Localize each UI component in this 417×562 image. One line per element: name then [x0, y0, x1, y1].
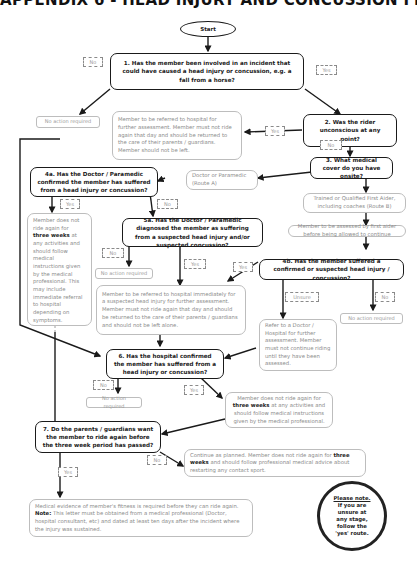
- refer-hospital-5a-box: Member to be referred to hospital immedi…: [96, 285, 246, 335]
- route-b-box: Trained or Qualified First Aider, includ…: [303, 193, 406, 213]
- refer-hospital-box: Member to be referred to hospital for fu…: [112, 111, 242, 160]
- six-yes-outcome: Member does not ride again for three wee…: [225, 392, 333, 428]
- q7-yes-label: Yes: [58, 467, 78, 477]
- question-2: 2. Was the rider unconscious at any poin…: [303, 114, 397, 147]
- q4b-yes-label: Yes: [233, 262, 253, 272]
- question-4a: 4a. Has the Doctor / Paramedic confirmed…: [30, 167, 158, 197]
- q1-yes-label: Yes: [316, 65, 337, 75]
- question-7: 7. Do the parents / guardians want the m…: [35, 421, 161, 453]
- q4a-no-label: No: [157, 199, 178, 209]
- question-6: 6. Has the hospital confirmed the member…: [106, 349, 224, 379]
- no-action-q1: No action required: [36, 116, 100, 128]
- question-3: 3. What medical cover do you have onsite…: [310, 157, 393, 179]
- start-node: Start: [180, 21, 236, 37]
- q4a-yes-label: Yes: [60, 199, 80, 209]
- no-action-6: No action required: [86, 397, 142, 408]
- q6-no-label: No: [93, 380, 114, 390]
- q7-no-label: No: [147, 455, 167, 465]
- q2-no-label: No: [320, 140, 342, 150]
- note-heading: Please note.: [333, 495, 370, 502]
- q2-yes-label: Yes: [265, 126, 285, 136]
- q4b-unsure-label: Unsure: [285, 292, 319, 302]
- assess-first-aider-box: Member to be assessed by first aider bef…: [288, 225, 406, 237]
- q5a-no-label: No: [102, 248, 124, 258]
- no-action-4b: No action required: [340, 313, 403, 324]
- question-1: 1. Has the member been involved in an in…: [110, 53, 304, 90]
- seven-yes-outcome: Medical evidence of member's fitness is …: [29, 499, 253, 537]
- refer-doctor-unsure-box: Refer to a Doctor / Hospital for further…: [259, 319, 337, 371]
- please-note-circle: Please note. If you are unsure at any st…: [317, 481, 387, 551]
- seven-no-outcome: Continue as planned. Member does not rid…: [184, 449, 366, 477]
- q5a-yes-label: Yes: [184, 259, 206, 269]
- question-5a: 5a. Has the Doctor / Paramedic diagnosed…: [122, 218, 263, 247]
- q4b-no-label: No: [375, 292, 395, 302]
- route-a-box: Doctor or Paramedic (Route A): [186, 170, 258, 190]
- q6-yes-label: Yes: [184, 385, 204, 395]
- no-action-5a: No action required: [95, 268, 153, 279]
- four-a-yes-outcome: Member does not ride again for three wee…: [27, 213, 92, 326]
- q1-no-label: No: [83, 57, 103, 67]
- question-4b: 4b. Has the member suffered a confirmed …: [259, 259, 404, 280]
